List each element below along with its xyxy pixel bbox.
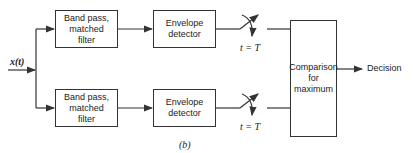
lower-switch-label: t = T — [240, 121, 260, 132]
upper-matched-filter-block: Band pass, matched filter — [55, 10, 118, 48]
figure-caption: (b) — [179, 139, 191, 150]
lower-sampling-switch-icon — [216, 94, 290, 115]
decision-output-label: Decision — [367, 63, 402, 73]
comparison-for-maximum-block: Comparison for maximum — [290, 20, 337, 137]
upper-envelope-detector-block: Envelope detector — [153, 10, 216, 48]
lower-matched-filter-block: Band pass, matched filter — [55, 89, 118, 127]
upper-sampling-switch-icon — [216, 15, 290, 36]
upper-switch-label: t = T — [240, 42, 260, 53]
lower-envelope-detector-block: Envelope detector — [153, 89, 216, 127]
input-signal-label: x(t) — [10, 56, 24, 67]
